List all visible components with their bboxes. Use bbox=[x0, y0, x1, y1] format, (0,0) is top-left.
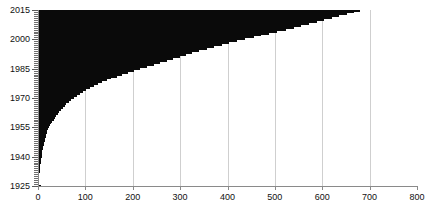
bar-row bbox=[38, 132, 47, 134]
bar-row bbox=[38, 77, 111, 79]
bar-row bbox=[38, 21, 317, 23]
bar-row bbox=[38, 46, 214, 48]
bar-row bbox=[38, 13, 347, 15]
bar-row bbox=[38, 64, 154, 66]
bar-row bbox=[38, 17, 332, 19]
bar-row bbox=[38, 66, 147, 68]
gridline-700 bbox=[370, 10, 371, 186]
horizontal-bar-chart: 1925194019551970198520002015 01002003004… bbox=[0, 0, 438, 216]
x-tick-label: 400 bbox=[208, 192, 248, 202]
x-tick-label: 500 bbox=[255, 192, 295, 202]
bar-row bbox=[38, 40, 237, 42]
bar-row bbox=[38, 54, 186, 56]
bar-row bbox=[38, 87, 90, 89]
x-tick-label: 800 bbox=[397, 192, 437, 202]
bar-row bbox=[38, 124, 50, 126]
x-tick-800 bbox=[417, 186, 418, 190]
bar-row bbox=[38, 93, 80, 95]
bar-row bbox=[38, 10, 360, 12]
y-tick-label: 2000 bbox=[0, 34, 30, 44]
x-tick-300 bbox=[180, 186, 181, 190]
bar-row bbox=[38, 70, 134, 72]
bar-row bbox=[38, 113, 58, 115]
bar-row bbox=[38, 58, 173, 60]
bar-row bbox=[38, 52, 192, 54]
x-tick-label: 600 bbox=[302, 192, 342, 202]
bar-row bbox=[38, 115, 56, 117]
y-tick-label: 2015 bbox=[0, 5, 30, 15]
x-tick-label: 100 bbox=[65, 192, 105, 202]
bar-row bbox=[38, 32, 269, 34]
bar-row bbox=[38, 27, 294, 29]
bar-row bbox=[38, 105, 65, 107]
gridline-600 bbox=[322, 10, 323, 186]
x-tick-label: 300 bbox=[160, 192, 200, 202]
bar-row bbox=[38, 119, 54, 121]
x-tick-600 bbox=[322, 186, 323, 190]
y-axis-line bbox=[38, 10, 39, 186]
bar-row bbox=[38, 62, 160, 64]
y-tick-label: 1940 bbox=[0, 152, 30, 162]
x-tick-label: 0 bbox=[18, 192, 58, 202]
bar-row bbox=[38, 76, 117, 78]
bar-row bbox=[38, 60, 167, 62]
plot-area bbox=[38, 10, 417, 186]
x-tick-label: 200 bbox=[113, 192, 153, 202]
bar-row bbox=[38, 103, 66, 105]
bar-row bbox=[38, 50, 199, 52]
bar-row bbox=[38, 81, 102, 83]
bar-row bbox=[38, 79, 107, 81]
bar-row bbox=[38, 126, 49, 128]
y-tick-label: 1955 bbox=[0, 122, 30, 132]
y-tick-label: 1970 bbox=[0, 93, 30, 103]
bar-row bbox=[38, 72, 128, 74]
x-tick-100 bbox=[85, 186, 86, 190]
y-tick-label: 1925 bbox=[0, 181, 30, 191]
x-tick-700 bbox=[370, 186, 371, 190]
bar-row bbox=[38, 36, 254, 38]
bar-row bbox=[38, 19, 324, 21]
bar-row bbox=[38, 34, 261, 36]
bar-row bbox=[38, 111, 59, 113]
y-axis-labels: 1925194019551970198520002015 bbox=[0, 0, 30, 216]
bar-row bbox=[38, 83, 98, 85]
gridline-500 bbox=[275, 10, 276, 186]
bar-row bbox=[38, 29, 286, 31]
x-tick-400 bbox=[228, 186, 229, 190]
bar-row bbox=[38, 38, 245, 40]
bar-row bbox=[38, 97, 74, 99]
bar-row bbox=[38, 136, 46, 138]
bar-row bbox=[38, 15, 339, 17]
bar-row bbox=[38, 122, 51, 124]
bar-row bbox=[38, 120, 52, 122]
bar-row bbox=[38, 99, 71, 101]
bar-row bbox=[38, 91, 83, 93]
bar-row bbox=[38, 48, 207, 50]
x-tick-label: 700 bbox=[350, 192, 390, 202]
bar-row bbox=[38, 89, 86, 91]
bar-row bbox=[38, 31, 277, 33]
bar-row bbox=[38, 117, 55, 119]
bar-row bbox=[38, 23, 309, 25]
bar-row bbox=[38, 130, 47, 132]
y-tick-label: 1985 bbox=[0, 64, 30, 74]
bar-row bbox=[38, 42, 229, 44]
bar-row bbox=[38, 128, 48, 130]
x-tick-0 bbox=[38, 186, 39, 190]
bar-row bbox=[38, 109, 61, 111]
bar-row bbox=[38, 56, 180, 58]
bar-row bbox=[38, 101, 69, 103]
bar-row bbox=[38, 74, 122, 76]
bar-row bbox=[38, 138, 45, 140]
bar-row bbox=[38, 44, 222, 46]
bar-row bbox=[38, 107, 63, 109]
bar-row bbox=[38, 25, 301, 27]
bar-row bbox=[38, 85, 94, 87]
x-tick-500 bbox=[275, 186, 276, 190]
bar-row bbox=[38, 68, 140, 70]
bar-row bbox=[38, 95, 77, 97]
x-tick-200 bbox=[133, 186, 134, 190]
bar-row bbox=[38, 134, 46, 136]
